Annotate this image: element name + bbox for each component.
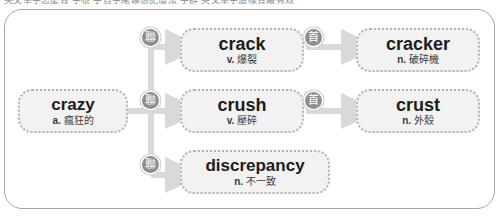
word-meaning: 不一致 — [246, 176, 276, 187]
word-term: discrepancy — [205, 157, 304, 175]
word-pos: n. — [397, 54, 406, 65]
word-gloss: n. 外殼 — [402, 115, 434, 126]
word-pos: n. — [234, 176, 243, 187]
word-box-crush[interactable]: crush v. 壓碎 — [180, 89, 304, 133]
word-box-cracker[interactable]: cracker n. 破碎機 — [356, 28, 480, 72]
word-meaning: 爆裂 — [237, 54, 257, 65]
word-term: crush — [217, 96, 266, 115]
word-box-crust[interactable]: crust n. 外殼 — [356, 89, 480, 133]
association-icon: 聯 — [142, 29, 159, 46]
prefix-icon: 首 — [305, 92, 322, 109]
word-term: crazy — [51, 96, 94, 114]
word-gloss: a. 瘋狂的 — [52, 115, 93, 126]
word-gloss: n. 破碎機 — [397, 54, 439, 65]
word-pos: v. — [227, 54, 235, 65]
word-term: crust — [396, 96, 440, 115]
word-box-discrepancy[interactable]: discrepancy n. 不一致 — [180, 150, 330, 194]
word-gloss: n. 不一致 — [234, 176, 276, 187]
word-pos: a. — [52, 115, 60, 126]
word-term: cracker — [386, 35, 450, 54]
word-pos: v. — [227, 115, 235, 126]
association-icon: 聯 — [142, 156, 159, 173]
association-icon: 聯 — [142, 92, 159, 109]
cropped-header-text: 英文單字怎麼背 字根 字首字尾聯想記憶法 字群 英文單字這樣背最有效 — [0, 0, 501, 7]
word-pos: n. — [402, 115, 411, 126]
word-box-crazy[interactable]: crazy a. 瘋狂的 — [18, 89, 128, 133]
word-meaning: 壓碎 — [237, 115, 257, 126]
word-meaning: 破碎機 — [409, 54, 439, 65]
word-meaning: 瘋狂的 — [64, 115, 94, 126]
prefix-icon: 首 — [305, 29, 322, 46]
word-box-crack[interactable]: crack v. 爆裂 — [180, 28, 304, 72]
word-term: crack — [218, 35, 265, 54]
word-meaning: 外殼 — [414, 115, 434, 126]
word-gloss: v. 壓碎 — [227, 115, 257, 126]
word-gloss: v. 爆裂 — [227, 54, 257, 65]
cropped-header-label: 英文單字怎麼背 字根 字首字尾聯想記憶法 字群 英文單字這樣背最有效 — [4, 0, 294, 6]
